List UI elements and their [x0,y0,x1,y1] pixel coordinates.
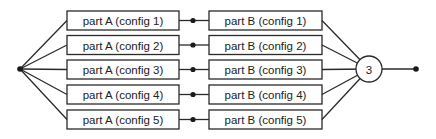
input-branch-line [20,69,67,120]
input-branch-line [20,69,67,95]
config-row: part A (config 3)part B (config 3) [67,60,322,79]
config-row: part A (config 2)part B (config 2) [67,36,322,55]
config-row: part A (config 5)part B (config 5) [67,110,322,129]
config-row: part A (config 1)part B (config 1) [67,11,322,30]
part-a-label: part A (config 1) [83,15,164,27]
junction-dot [190,117,195,122]
input-branch-line [20,21,67,70]
junction-dot [190,42,195,47]
part-b-label: part B (config 5) [225,114,307,126]
input-node-dot [17,66,23,72]
config-row: part A (config 4)part B (config 4) [67,85,322,104]
part-b-label: part B (config 3) [225,64,307,76]
voter-label: 3 [366,64,372,76]
input-fan-lines [20,21,67,120]
part-a-label: part A (config 2) [83,40,164,52]
junction-dot [190,67,195,72]
junction-dot [190,18,195,23]
output-node-dot [413,66,419,72]
part-b-label: part B (config 1) [225,15,307,27]
input-branch-line [20,45,67,69]
part-a-label: part A (config 4) [83,89,164,101]
reliability-block-diagram: part A (config 1)part B (config 1)part A… [0,0,436,139]
part-b-label: part B (config 2) [225,40,307,52]
part-a-label: part A (config 3) [83,64,164,76]
config-rows: part A (config 1)part B (config 1)part A… [67,11,322,129]
part-b-label: part B (config 4) [225,89,307,101]
part-a-label: part A (config 5) [83,114,164,126]
input-branch-line [20,69,67,70]
junction-dot [190,92,195,97]
